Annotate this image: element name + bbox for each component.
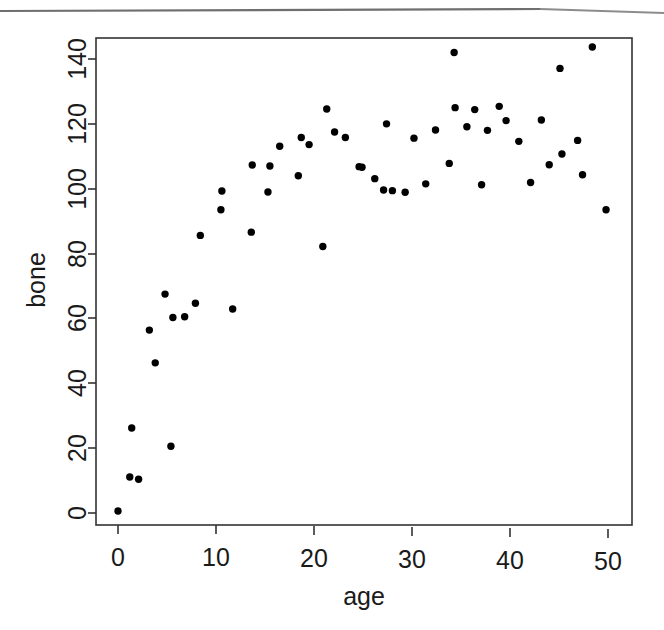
data-point [331,128,338,135]
data-point [152,359,159,366]
data-point [389,187,396,194]
data-point [602,206,609,213]
data-point [167,443,174,450]
x-tick-label-30: 30 [398,545,426,573]
data-point [248,228,255,235]
data-point [496,103,503,110]
data-point [342,134,349,141]
data-point [478,181,485,188]
data-point [197,232,204,239]
data-point [527,179,534,186]
data-point [546,161,553,168]
data-point [574,137,581,144]
y-tick-label-60: 60 [63,304,91,332]
x-tick-label-40: 40 [496,546,524,574]
data-points-layer [114,43,609,514]
data-point [451,104,458,111]
data-point [432,126,439,133]
y-tick-label-20: 20 [63,434,91,462]
data-point [319,243,326,250]
data-point [463,123,470,130]
data-point [380,186,387,193]
y-tick-label-80: 80 [63,240,91,268]
data-point [558,150,565,157]
data-point [249,161,256,168]
x-tick-label-10: 10 [202,543,230,571]
x-tick-label-20: 20 [300,544,328,572]
page-edge-artifact [0,9,664,13]
data-point [264,188,271,195]
data-point [401,189,408,196]
data-point [229,305,236,312]
data-point [471,106,478,113]
data-point [181,313,188,320]
data-point [298,134,305,141]
data-point [371,175,378,182]
data-point [450,49,457,56]
data-point [323,105,330,112]
data-point [358,164,365,171]
x-axis-tick-labels: 0 10 20 30 40 50 [111,543,622,575]
scatter-plot-svg: 0 20 40 60 80 100 120 140 bone 0 10 20 3… [0,0,664,630]
plot-frame [96,38,632,525]
data-point [410,134,417,141]
y-tick-label-0: 0 [63,506,91,520]
figure-container: 0 20 40 60 80 100 120 140 bone 0 10 20 3… [0,0,664,630]
data-point [135,476,142,483]
y-tick-label-120: 120 [63,103,91,145]
data-point [218,187,225,194]
x-tick-label-50: 50 [594,547,622,575]
data-point [422,180,429,187]
data-point [295,172,302,179]
data-point [446,160,453,167]
data-point [114,507,121,514]
y-axis-title: bone [22,252,50,308]
data-point [276,143,283,150]
y-axis-tick-labels: 0 20 40 60 80 100 120 140 [63,38,91,520]
x-tick-label-0: 0 [111,543,125,571]
data-point [126,473,133,480]
x-axis-title: age [343,582,385,610]
y-tick-label-40: 40 [63,369,91,397]
y-tick-label-140: 140 [63,38,91,80]
data-point [305,141,312,148]
data-point [383,120,390,127]
data-point [146,326,153,333]
data-point [484,127,491,134]
data-point [538,116,545,123]
data-point [589,43,596,50]
data-point [556,65,563,72]
data-point [217,206,224,213]
data-point [515,138,522,145]
data-point [502,117,509,124]
data-point [169,314,176,321]
data-point [128,424,135,431]
data-point [579,171,586,178]
data-point [266,162,273,169]
x-axis-ticks [118,525,608,538]
data-point [192,299,199,306]
data-point [161,290,168,297]
y-tick-label-100: 100 [63,168,91,210]
